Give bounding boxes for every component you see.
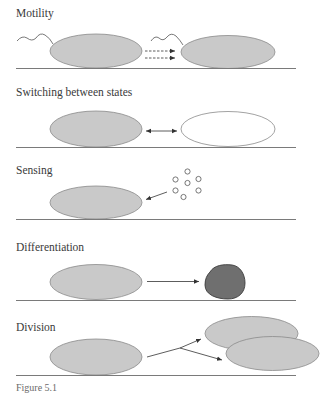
molecule-icon bbox=[185, 180, 190, 185]
molecule-icon bbox=[196, 176, 201, 181]
panel-division bbox=[16, 317, 319, 376]
cell bbox=[50, 265, 142, 300]
cell-alternate-state bbox=[181, 112, 275, 147]
molecule-icon bbox=[173, 188, 178, 193]
cell bbox=[50, 111, 142, 147]
division-arrow-stem bbox=[147, 348, 180, 357]
cell bbox=[50, 186, 142, 219]
molecule-icon bbox=[185, 169, 190, 174]
molecule-icon bbox=[181, 194, 186, 199]
division-arrow-lower bbox=[180, 348, 222, 360]
flagellum-icon bbox=[151, 34, 183, 45]
division-arrow-upper bbox=[180, 339, 201, 348]
figure-caption: Figure 5.1 bbox=[16, 383, 57, 393]
molecule-icon bbox=[196, 188, 201, 193]
signal-arrow bbox=[146, 192, 167, 200]
cell bbox=[50, 34, 142, 68]
differentiated-cell bbox=[205, 265, 245, 299]
signal-molecules bbox=[173, 169, 201, 200]
panel-motility bbox=[16, 34, 296, 69]
cell bbox=[181, 36, 275, 69]
flagellum-icon bbox=[17, 34, 53, 44]
cell bbox=[50, 339, 142, 375]
panel-switching bbox=[16, 111, 296, 148]
panel-sensing bbox=[16, 169, 296, 220]
molecule-icon bbox=[173, 177, 178, 182]
daughter-cell bbox=[226, 337, 319, 371]
panel-differentiation bbox=[16, 265, 296, 301]
